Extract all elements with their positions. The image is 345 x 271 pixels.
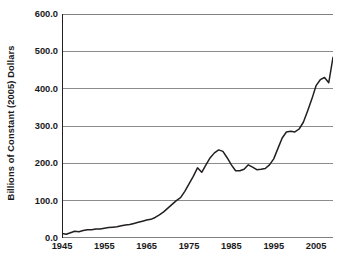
data-line [62, 57, 333, 234]
x-axis-tick-label: 2005 [296, 241, 336, 251]
x-axis-tick-label: 1955 [84, 241, 124, 251]
data-series [62, 57, 333, 234]
x-axis-tick-label: 1995 [254, 241, 294, 251]
gridlines [62, 14, 333, 238]
x-axis-tick-labels: 1945195519651975198519952005 [0, 241, 345, 257]
y-axis-tick-labels: 0.0100.0200.0300.0400.0500.0600.0 [18, 0, 58, 271]
chart-canvas [62, 14, 333, 238]
y-axis-tick-label: 600.0 [22, 9, 58, 19]
y-axis-tick-label: 500.0 [22, 46, 58, 56]
y-axis-tick-label: 200.0 [22, 158, 58, 168]
y-axis-tick-label: 100.0 [22, 196, 58, 206]
chart-figure: Billions of Constant (2005) Dollars 0.01… [0, 0, 345, 271]
plot-area [62, 14, 333, 238]
y-axis-tick-label: 300.0 [22, 121, 58, 131]
y-axis-tick-label: 400.0 [22, 84, 58, 94]
x-axis-tick-label: 1975 [169, 241, 209, 251]
x-axis-tick-label: 1945 [42, 241, 82, 251]
y-axis-title-text: Billions of Constant (2005) Dollars [6, 45, 16, 200]
x-axis-tick-label: 1965 [127, 241, 167, 251]
x-axis-tick-label: 1985 [211, 241, 251, 251]
